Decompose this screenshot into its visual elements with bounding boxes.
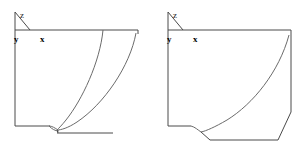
outer-profile-curve <box>57 33 136 130</box>
x-axis-label: x <box>40 34 45 44</box>
figure-pair: z y x <box>0 0 307 158</box>
y-axis-label: y <box>167 34 172 44</box>
right-riser-line <box>278 112 291 140</box>
shoulder-step-line <box>191 126 201 132</box>
x-axis-label: x <box>193 34 198 44</box>
base-leg-line <box>201 132 210 140</box>
inner-profile-curve <box>201 35 289 132</box>
y-axis-label: y <box>14 34 19 44</box>
z-axis-label: z <box>173 10 177 20</box>
inner-profile-curve <box>57 30 103 130</box>
right-figure-panel: z y x <box>153 0 307 158</box>
left-figure-panel: z y x <box>0 0 154 158</box>
left-figure-drawing: z y x <box>0 0 154 158</box>
z-axis-label: z <box>20 10 24 20</box>
right-figure-drawing: z y x <box>153 0 307 158</box>
